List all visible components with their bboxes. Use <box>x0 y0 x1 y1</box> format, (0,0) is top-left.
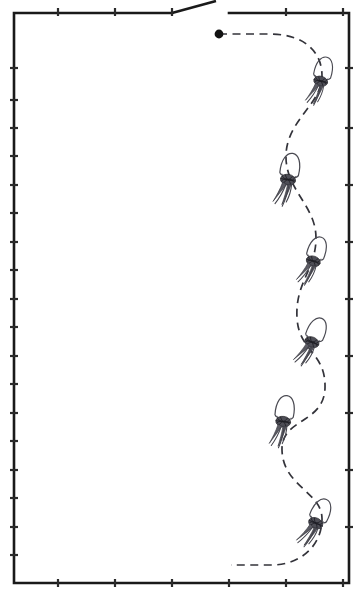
balloon-marker-2 <box>272 151 302 208</box>
dashed-trajectory <box>219 34 325 565</box>
balloon-markers <box>269 55 336 551</box>
figure-canvas <box>0 0 364 596</box>
balloon-marker-3 <box>296 234 330 288</box>
field-boundary <box>14 1 349 583</box>
boundary-ticks <box>10 8 353 587</box>
boundary-notch-diagonal <box>172 1 216 13</box>
balloon-marker-5 <box>269 394 296 449</box>
trajectory-start-dot <box>215 30 224 39</box>
diagram-svg <box>0 0 364 596</box>
